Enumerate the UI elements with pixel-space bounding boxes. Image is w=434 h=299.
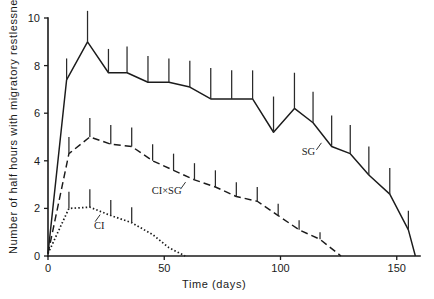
y-axis-title: Number of half hours with migratory rest… <box>7 0 19 254</box>
error-bars <box>67 11 409 239</box>
annotation-leader <box>316 143 321 150</box>
x-tick-label: 100 <box>271 262 289 274</box>
y-tick-label: 10 <box>28 12 40 24</box>
annotation-label: SG <box>302 146 316 157</box>
series-line-cixsg <box>48 137 341 256</box>
annotation-label: CI×SG <box>152 185 182 196</box>
series-annotations: SGCI×SGCI <box>94 143 322 231</box>
x-axis-title: Time (days) <box>182 278 246 290</box>
axis-tick-labels: 0246810050100150 <box>28 12 406 274</box>
x-tick-label: 150 <box>388 262 406 274</box>
y-tick-label: 6 <box>34 107 40 119</box>
x-tick-label: 0 <box>45 262 51 274</box>
y-tick-label: 8 <box>34 60 40 72</box>
y-tick-label: 4 <box>34 155 40 167</box>
y-tick-label: 0 <box>34 250 40 262</box>
figure-container: Number of half hours with migratory rest… <box>0 0 434 299</box>
series-line-ci <box>48 207 185 256</box>
line-chart: Number of half hours with migratory rest… <box>0 0 434 299</box>
x-tick-label: 50 <box>158 262 170 274</box>
y-tick-label: 2 <box>34 202 40 214</box>
